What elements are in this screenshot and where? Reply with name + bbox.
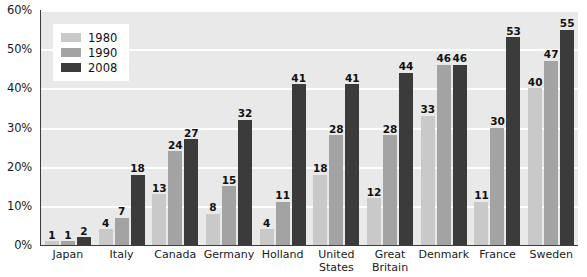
bar[interactable]: 11 [474,202,488,245]
x-axis-tick-label: Denmark [417,248,471,261]
bar[interactable]: 13 [152,194,166,245]
legend-item[interactable]: 1990 [61,45,117,60]
y-axis-tick-label: 60% [7,3,32,17]
bar-value-label: 55 [560,18,575,29]
bar-wrapper: 18 [313,10,327,245]
bar[interactable]: 46 [453,65,467,245]
bar-wrapper: 33 [421,10,435,245]
bar-group: 334646 [417,10,471,245]
bar-value-label: 18 [313,163,328,174]
bar-value-label: 47 [544,49,559,60]
bar-value-label: 11 [474,190,489,201]
bar-wrapper: 13 [152,10,166,245]
bar-wrapper: 46 [437,10,451,245]
bar-wrapper: 12 [367,10,381,245]
bar[interactable]: 40 [528,88,542,245]
bar-wrapper: 41 [292,10,306,245]
bar-value-label: 41 [291,73,306,84]
legend-item[interactable]: 2008 [61,60,117,75]
bar[interactable]: 44 [399,73,413,245]
bar-wrapper: 47 [544,10,558,245]
bar[interactable]: 18 [131,175,145,246]
bar-group: 113053 [471,10,525,245]
bar-wrapper: 8 [206,10,220,245]
bar[interactable]: 15 [222,186,236,245]
bar-value-label: 11 [275,190,290,201]
bar-wrapper: 28 [329,10,343,245]
x-axis-tick-label: Great Britain [363,248,417,274]
bar-value-label: 32 [238,108,253,119]
bar[interactable]: 27 [184,139,198,245]
bar-wrapper: 18 [131,10,145,245]
bar-group: 132427 [148,10,202,245]
bar[interactable]: 33 [421,116,435,245]
x-axis: JapanItalyCanadaGermanyHollandUnited Sta… [41,248,578,277]
y-axis-tick-label: 10% [7,199,32,213]
bar-wrapper: 4 [260,10,274,245]
bar-wrapper: 27 [184,10,198,245]
bar-value-label: 13 [152,183,167,194]
bar[interactable]: 4 [260,229,274,245]
bar[interactable]: 11 [276,202,290,245]
bar-value-label: 41 [345,73,360,84]
legend-swatch-icon [61,48,81,57]
legend-swatch-icon [61,33,81,42]
bar-value-label: 12 [367,187,382,198]
legend-item-label: 2008 [88,61,117,75]
y-axis-tick-label: 0% [14,238,32,252]
bar[interactable]: 28 [329,135,343,245]
bar-wrapper: 11 [276,10,290,245]
bar-value-label: 4 [263,218,270,229]
bar[interactable]: 30 [490,128,504,246]
bar[interactable]: 41 [345,84,359,245]
bar-value-label: 2 [80,226,87,237]
y-axis-tick-label: 30% [7,121,32,135]
bar[interactable]: 41 [292,84,306,245]
bar[interactable]: 8 [206,214,220,245]
x-axis-tick-label: Holland [256,248,310,261]
bar-wrapper: 40 [528,10,542,245]
bar[interactable]: 2 [77,237,91,245]
x-axis-tick-label: Japan [41,248,95,261]
bar-value-label: 40 [528,77,543,88]
y-axis-tick-label: 20% [7,160,32,174]
bar[interactable]: 24 [168,151,182,245]
x-axis-line [40,245,578,246]
bar-value-label: 30 [490,116,505,127]
bar[interactable]: 47 [544,61,558,245]
bar-chart: 0%10%20%30%40%50%60% 1124718132427815324… [0,0,587,277]
bar[interactable]: 46 [437,65,451,245]
bar-value-label: 46 [452,53,467,64]
x-axis-tick-label: Sweden [524,248,578,261]
legend-item[interactable]: 1980 [61,30,117,45]
bar-value-label: 1 [64,230,71,241]
bar[interactable]: 32 [238,120,252,245]
bar[interactable]: 55 [560,30,574,245]
bar[interactable]: 18 [313,175,327,246]
y-axis-tick-label: 40% [7,81,32,95]
bar-wrapper: 44 [399,10,413,245]
bar-value-label: 7 [118,206,125,217]
bar[interactable]: 12 [367,198,381,245]
bar-group: 81532 [202,10,256,245]
bar-value-label: 33 [420,104,435,115]
bar-value-label: 8 [209,202,216,213]
bar[interactable]: 53 [506,37,520,245]
bar[interactable]: 28 [383,135,397,245]
bar-wrapper: 55 [560,10,574,245]
bar[interactable]: 1 [61,241,75,245]
legend-swatch-icon [61,63,81,72]
x-axis-tick-label: Germany [202,248,256,261]
bar-value-label: 44 [399,61,414,72]
bar[interactable]: 7 [115,218,129,245]
y-axis: 0%10%20%30%40%50%60% [0,0,36,246]
bar-value-label: 18 [130,163,145,174]
bar-value-label: 4 [102,218,109,229]
bar-wrapper: 15 [222,10,236,245]
bar[interactable]: 1 [45,241,59,245]
bar-value-label: 53 [506,26,521,37]
x-axis-tick-label: Italy [95,248,149,261]
legend: 198019902008 [53,24,129,81]
bar-value-label: 46 [436,53,451,64]
bar[interactable]: 4 [99,229,113,245]
